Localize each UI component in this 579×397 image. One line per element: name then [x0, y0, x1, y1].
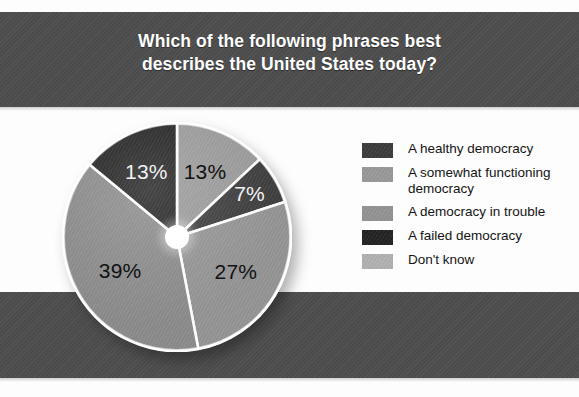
pie-slice-value-label: 13%	[184, 160, 227, 184]
chart-legend: A healthy democracyA somewhat functionin…	[362, 141, 574, 276]
legend-label: A somewhat functioning democracy	[408, 165, 574, 197]
legend-label: A healthy democracy	[408, 141, 533, 157]
legend-swatch	[362, 254, 393, 269]
pie-slice-value-label: 13%	[125, 160, 168, 184]
chart-title-line-2: describes the United States today?	[0, 53, 579, 76]
pie-slice-value-label: 7%	[234, 182, 265, 206]
legend-item[interactable]: A somewhat functioning democracy	[362, 165, 574, 197]
pie-chart: 13%7%27%39%13%	[62, 122, 292, 352]
legend-item[interactable]: A democracy in trouble	[362, 204, 574, 221]
legend-item[interactable]: Don't know	[362, 252, 574, 269]
pie-slice-value-label: 27%	[215, 260, 258, 284]
legend-label: A democracy in trouble	[408, 204, 545, 220]
poster-canvas: Which of the following phrases best desc…	[0, 0, 579, 397]
legend-label: A failed democracy	[408, 228, 522, 244]
chart-title-line-1: Which of the following phrases best	[0, 30, 579, 53]
legend-item[interactable]: A healthy democracy	[362, 141, 574, 158]
pie-center-hub	[165, 225, 189, 249]
legend-item[interactable]: A failed democracy	[362, 228, 574, 245]
legend-swatch	[362, 230, 393, 245]
pie-slice-value-label: 39%	[99, 259, 142, 283]
legend-label: Don't know	[408, 252, 474, 268]
legend-swatch	[362, 167, 393, 182]
legend-swatch	[362, 206, 393, 221]
legend-swatch	[362, 143, 393, 158]
chart-title: Which of the following phrases best desc…	[0, 30, 579, 76]
